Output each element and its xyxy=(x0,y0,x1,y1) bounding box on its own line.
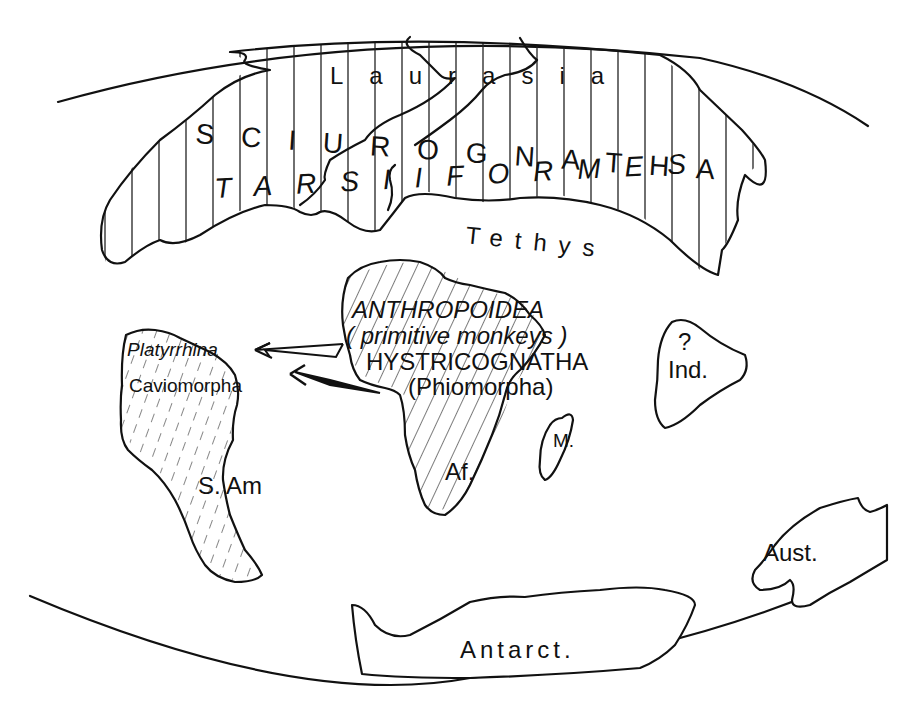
india-question-mark: ? xyxy=(678,328,691,355)
phiomorpha-label: (Phiomorpha) xyxy=(408,373,553,400)
primitive-monkeys-label: ( primitive monkeys ) xyxy=(346,322,567,349)
paleogeographic-map: Laurasia SCIUROGNATHA TARSIIFORMES Tethy… xyxy=(0,0,920,717)
tethys-label: Tethys xyxy=(464,221,607,263)
anthropoidea-label: ANTHROPOIDEA xyxy=(350,296,544,323)
india-label: Ind. xyxy=(668,356,708,383)
australia-label: Aust. xyxy=(763,539,818,566)
caviomorpha-label: Caviomorpha xyxy=(129,375,242,396)
madagascar-label: M. xyxy=(553,430,574,451)
south-america-label: S. Am xyxy=(198,472,262,499)
south-america-landmass xyxy=(119,330,262,582)
africa-label: Af. xyxy=(445,458,474,485)
antarctica-label: Antarct. xyxy=(460,636,575,663)
platyrrhina-label: Platyrrhina xyxy=(127,339,218,360)
antarctica-landmass xyxy=(352,588,695,679)
primate-dispersal-arrow xyxy=(255,343,343,358)
laurasia-label: Laurasia xyxy=(330,62,630,89)
svg-text:Laurasia: Laurasia xyxy=(330,62,630,89)
hystricognatha-label: HYSTRICOGNATHA xyxy=(366,348,588,375)
